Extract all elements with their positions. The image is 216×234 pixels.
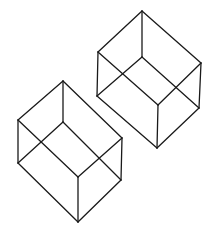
cube-edge xyxy=(157,108,199,148)
cube-edge xyxy=(97,52,98,96)
cube-edge xyxy=(199,63,201,108)
left-cube xyxy=(18,81,122,222)
two-wireframe-cubes-diagram xyxy=(0,0,216,234)
cube-edge xyxy=(97,57,142,96)
cube-edge xyxy=(142,11,201,63)
diagram-canvas xyxy=(0,0,216,234)
right-cube xyxy=(97,11,201,148)
cube-edge xyxy=(78,180,121,222)
cube-edge xyxy=(98,52,158,105)
cube-edge xyxy=(121,138,122,180)
cube-edge xyxy=(142,57,199,108)
cube-edge xyxy=(18,163,78,222)
cube-edge xyxy=(18,81,63,120)
cube-edge xyxy=(98,11,142,52)
cube-edge xyxy=(157,105,158,148)
cube-edge xyxy=(158,63,201,105)
